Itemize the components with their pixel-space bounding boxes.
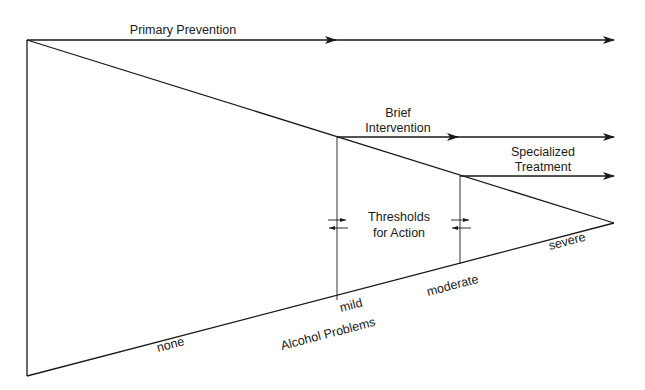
severity-moderate: moderate <box>425 272 480 299</box>
alcohol-problems-diagram: Primary Prevention Brief Intervention Sp… <box>0 0 645 390</box>
brief-intervention-label-2: Intervention <box>365 121 430 135</box>
triangle-lower-edge <box>27 223 614 376</box>
specialized-treatment-label-1: Specialized <box>511 145 575 159</box>
brief-intervention-label-1: Brief <box>385 106 411 120</box>
severity-triangle <box>27 40 614 376</box>
alcohol-problems-axis-label: Alcohol Problems <box>279 315 377 353</box>
thresholds-label-2: for Action <box>373 226 425 240</box>
severity-none: none <box>155 334 185 355</box>
severity-mild: mild <box>338 296 364 315</box>
triangle-upper-edge <box>27 40 614 223</box>
severity-severe: severe <box>547 230 587 253</box>
thresholds-label-1: Thresholds <box>368 210 430 224</box>
specialized-treatment-arrow: Specialized Treatment <box>460 145 614 264</box>
primary-prevention-label: Primary Prevention <box>130 23 236 37</box>
brief-intervention-arrow: Brief Intervention <box>337 106 614 300</box>
severity-labels: none mild moderate severe Alcohol Proble… <box>155 230 587 355</box>
primary-prevention-arrow: Primary Prevention <box>27 23 614 40</box>
threshold-markers: Thresholds for Action <box>328 210 471 240</box>
specialized-treatment-label-2: Treatment <box>515 160 572 174</box>
